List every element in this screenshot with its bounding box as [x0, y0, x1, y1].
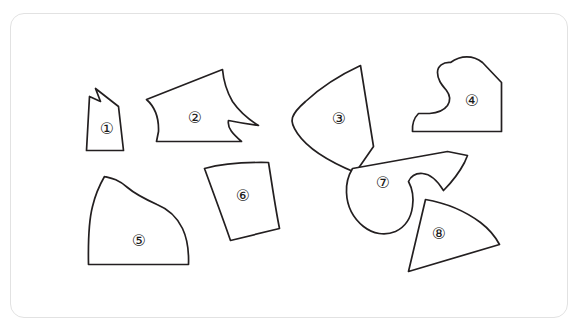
shape-group-4[interactable]: ④	[412, 57, 501, 132]
shape-label-4: ④	[465, 91, 479, 110]
shape-group-6[interactable]: ⑥	[205, 162, 280, 240]
shape-label-2: ②	[188, 108, 202, 127]
figure-root: ① ② ③ ④ ⑤ ⑥ ⑦ ⑧	[0, 0, 585, 333]
shape-label-5: ⑤	[132, 231, 146, 250]
shapes-canvas: ① ② ③ ④ ⑤ ⑥ ⑦ ⑧	[0, 0, 585, 333]
shape-label-7: ⑦	[376, 173, 390, 192]
shape-outline-8[interactable]	[409, 200, 500, 272]
shape-group-5[interactable]: ⑤	[88, 177, 188, 265]
shape-outline-2[interactable]	[147, 70, 259, 142]
shape-outline-5[interactable]	[88, 177, 188, 265]
shape-outline-4[interactable]	[412, 57, 501, 132]
shape-group-2[interactable]: ②	[147, 70, 259, 142]
shape-group-1[interactable]: ①	[87, 89, 124, 151]
shape-label-6: ⑥	[236, 186, 250, 205]
shape-group-8[interactable]: ⑧	[409, 200, 500, 272]
shape-group-3[interactable]: ③	[292, 66, 373, 173]
shape-label-1: ①	[100, 119, 114, 138]
shape-label-8: ⑧	[432, 224, 446, 243]
shape-label-3: ③	[332, 109, 346, 128]
